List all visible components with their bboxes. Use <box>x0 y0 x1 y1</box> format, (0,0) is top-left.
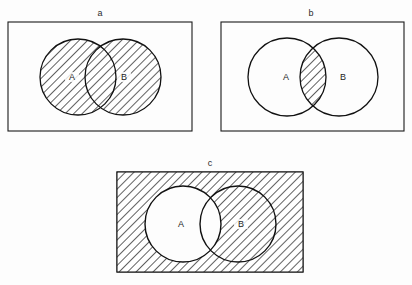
panel-b-set-label-B: B <box>336 72 350 82</box>
panel-b-group <box>221 22 404 131</box>
panel-c-set-label-A: A <box>174 219 188 229</box>
panel-label-a: a <box>90 8 110 18</box>
panel-c-group <box>117 172 303 272</box>
panel-label-c: c <box>200 158 220 168</box>
panel-c-set-label-B: B <box>234 219 248 229</box>
panel-label-b: b <box>301 8 321 18</box>
panel-b-set-label-A: A <box>279 72 293 82</box>
panel-a-group <box>8 22 192 131</box>
panel-a-set-label-B: B <box>117 72 131 82</box>
venn-diagram-canvas <box>0 0 412 285</box>
venn-diagram-figure: a b c A B A B A B <box>0 0 412 285</box>
panel-a-set-label-A: A <box>65 72 79 82</box>
